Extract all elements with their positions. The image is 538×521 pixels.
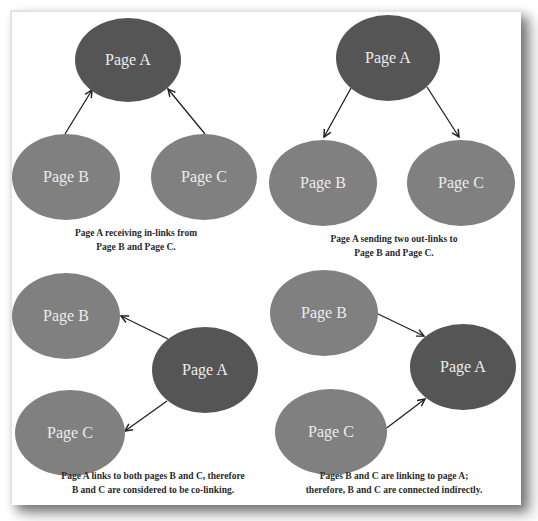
- panel-indirect: Page BPage APage CPages B and C are link…: [270, 270, 516, 495]
- node-page-a: Page A: [75, 18, 181, 102]
- caption-line-1: Page A links to both pages B and C, ther…: [61, 471, 244, 481]
- node-page-a: Page A: [410, 324, 516, 410]
- panel-in-links: Page APage BPage CPage A receiving in-li…: [12, 18, 257, 252]
- node-label: Page B: [300, 174, 346, 192]
- node-page-c: Page C: [275, 389, 387, 475]
- arrow-icon: [121, 316, 168, 339]
- node-label: Page B: [43, 307, 89, 325]
- arrow-icon: [168, 89, 205, 134]
- node-label: Page A: [365, 49, 411, 67]
- node-label: Page B: [301, 304, 347, 322]
- arrow-icon: [324, 88, 351, 137]
- arrow-icon: [427, 87, 459, 137]
- caption-line-2: therefore, B and C are connected indirec…: [306, 485, 483, 495]
- node-page-c: Page C: [15, 390, 125, 476]
- arrow-icon: [384, 399, 425, 430]
- node-label: Page C: [308, 423, 354, 441]
- node-page-c: Page C: [151, 134, 257, 220]
- node-label: Page A: [105, 51, 151, 69]
- node-label: Page A: [182, 361, 228, 379]
- caption-line-1: Page A sending two out-links to: [331, 234, 458, 244]
- node-label: Page A: [440, 358, 486, 376]
- panels: Page APage BPage CPage A receiving in-li…: [12, 15, 516, 495]
- caption-line-1: Pages B and C are linking to page A;: [320, 471, 469, 481]
- node-label: Page C: [438, 174, 484, 192]
- node-page-a: Page A: [152, 327, 258, 413]
- node-page-b: Page B: [269, 140, 377, 226]
- arrow-icon: [125, 401, 167, 431]
- node-page-c: Page C: [407, 140, 515, 226]
- node-page-b: Page B: [12, 273, 120, 359]
- node-label: Page C: [181, 168, 227, 186]
- node-page-b: Page B: [12, 134, 120, 220]
- link-relationship-diagram: Page APage BPage CPage A receiving in-li…: [0, 0, 538, 521]
- node-label: Page B: [43, 168, 89, 186]
- caption-line-2: Page B and Page C.: [354, 248, 433, 258]
- node-page-a: Page A: [336, 15, 440, 101]
- arrow-icon: [376, 313, 424, 336]
- caption-line-2: B and C are considered to be co-linking.: [72, 485, 234, 495]
- panel-co-linking: Page BPage APage CPage A links to both p…: [12, 273, 258, 495]
- caption-line-1: Page A receiving in-links from: [75, 228, 197, 238]
- arrow-icon: [65, 90, 92, 134]
- caption-line-2: Page B and Page C.: [96, 242, 175, 252]
- node-label: Page C: [47, 424, 93, 442]
- panel-out-links: Page APage BPage CPage A sending two out…: [269, 15, 515, 258]
- node-page-b: Page B: [270, 270, 378, 356]
